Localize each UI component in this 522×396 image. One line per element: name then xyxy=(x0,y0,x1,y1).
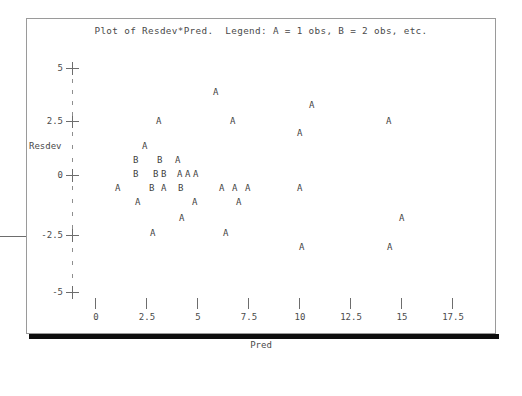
y-minor-tick xyxy=(72,90,73,94)
data-point-A: A xyxy=(299,243,304,252)
data-point-A: A xyxy=(135,198,140,207)
y-tick-label-2p5: 2.5 xyxy=(47,116,63,126)
y-tick-label-n5: -5 xyxy=(52,287,63,297)
x-axis-title: Pred xyxy=(0,340,522,350)
data-point-B: B xyxy=(149,184,154,193)
scatter-plot-screenshot: Plot of Resdev*Pred. Legend: A = 1 obs, … xyxy=(0,0,522,396)
x-tick-label-0: 0 xyxy=(76,312,116,322)
data-point-B: B xyxy=(133,170,138,179)
x-major-tick-10 xyxy=(299,298,300,309)
data-point-A: A xyxy=(142,142,147,151)
y-minor-tick xyxy=(72,132,73,136)
y-tick-label-n2p5: -2.5 xyxy=(41,230,63,240)
data-point-A: A xyxy=(236,198,241,207)
data-point-A: A xyxy=(232,184,237,193)
y-minor-tick xyxy=(72,101,73,105)
data-point-A: A xyxy=(179,214,184,223)
y-minor-tick xyxy=(72,79,73,83)
plot-title: Plot of Resdev*Pred. Legend: A = 1 obs, … xyxy=(0,25,522,36)
data-point-A: A xyxy=(230,117,235,126)
data-point-A: A xyxy=(156,117,161,126)
x-major-tick-15 xyxy=(401,298,402,309)
x-tick-label-10: 10 xyxy=(280,312,320,322)
data-point-A: A xyxy=(115,184,120,193)
x-tick-label-17p5: 17.5 xyxy=(433,312,473,322)
x-major-tick-2p5 xyxy=(146,298,147,309)
data-point-A: A xyxy=(150,229,155,238)
data-point-A: A xyxy=(387,243,392,252)
x-major-tick-17p5 xyxy=(452,298,453,309)
x-tick-label-7p5: 7.5 xyxy=(229,312,269,322)
y-major-tick-0-v xyxy=(72,169,73,182)
y-minor-tick xyxy=(72,199,73,203)
data-point-A: A xyxy=(297,184,302,193)
frame-shadow xyxy=(29,334,499,339)
y-axis-title: Resdev xyxy=(29,141,62,151)
y-minor-tick xyxy=(72,248,73,252)
data-point-A: A xyxy=(219,184,224,193)
y-minor-tick xyxy=(72,261,73,265)
y-tick-label-0: 0 xyxy=(58,170,63,180)
y-minor-tick xyxy=(72,212,73,216)
data-point-A: A xyxy=(161,184,166,193)
x-tick-label-12p5: 12.5 xyxy=(331,312,371,322)
data-point-B: B xyxy=(161,170,166,179)
y-minor-tick xyxy=(72,112,73,116)
data-point-A: A xyxy=(175,156,180,165)
data-point-A: A xyxy=(386,117,391,126)
y-major-tick-n2p5-v xyxy=(72,229,73,242)
x-major-tick-5 xyxy=(197,298,198,309)
x-major-tick-12p5 xyxy=(350,298,351,309)
data-point-A: A xyxy=(185,170,190,179)
data-point-A: A xyxy=(177,170,182,179)
y-minor-tick xyxy=(72,158,73,162)
data-point-A: A xyxy=(213,88,218,97)
y-minor-tick xyxy=(72,225,73,229)
plot-frame xyxy=(26,18,496,334)
data-point-B: B xyxy=(157,156,162,165)
y-major-tick-5-v xyxy=(72,62,73,75)
data-point-A: A xyxy=(399,214,404,223)
y-minor-tick xyxy=(72,145,73,149)
data-point-A: A xyxy=(309,101,314,110)
y-tick-label-5: 5 xyxy=(58,63,63,73)
data-point-A: A xyxy=(192,198,197,207)
data-point-B: B xyxy=(153,170,158,179)
y-minor-tick xyxy=(72,274,73,278)
x-tick-label-2p5: 2.5 xyxy=(127,312,167,322)
x-tick-label-5: 5 xyxy=(178,312,218,322)
y-minor-tick xyxy=(72,186,73,190)
data-point-B: B xyxy=(133,156,138,165)
data-point-A: A xyxy=(245,184,250,193)
data-point-A: A xyxy=(297,129,302,138)
x-major-tick-0 xyxy=(95,298,96,309)
y-major-tick-n5-v xyxy=(72,286,73,299)
data-point-B: B xyxy=(178,184,183,193)
data-point-A: A xyxy=(193,170,198,179)
x-tick-label-15: 15 xyxy=(382,312,422,322)
x-major-tick-7p5 xyxy=(248,298,249,309)
y-major-tick-2p5-v xyxy=(72,115,73,128)
data-point-A: A xyxy=(223,229,228,238)
